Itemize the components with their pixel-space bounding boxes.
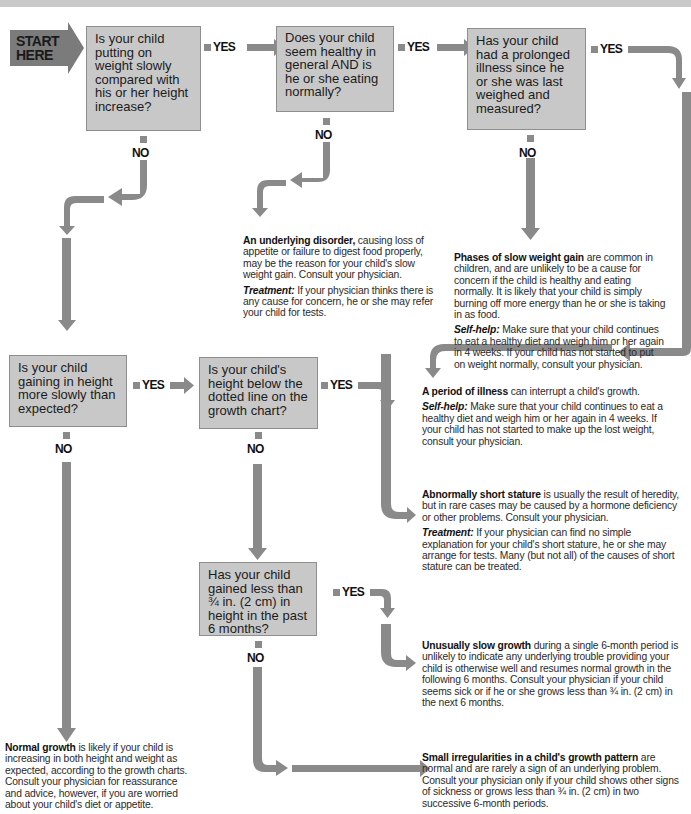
treatment-heading: Treatment: — [243, 285, 295, 296]
question-text: Has your child had a prolonged illness s… — [476, 33, 570, 116]
start-here-label: START HERE — [10, 26, 82, 70]
result-heading: Normal growth — [5, 742, 76, 753]
result-heading: Small irregularities in a child's growth… — [422, 752, 638, 763]
question-box-healthy-eating[interactable]: Does your child seem healthy in general … — [276, 26, 394, 112]
result-short-stature: Abnormally short stature is usually the … — [422, 489, 684, 577]
yes-label: YES — [213, 40, 235, 54]
question-text: Is your child's height below the dotted … — [208, 362, 308, 418]
question-text: Has your child gained less than ¾ in. (2… — [208, 567, 307, 636]
no-label: NO — [247, 442, 264, 456]
result-underlying-disorder: An underlying disorder, causing loss of … — [243, 235, 443, 323]
no-label: NO — [247, 651, 264, 665]
question-box-below-dotted-line[interactable]: Is your child's height below the dotted … — [199, 357, 318, 429]
yes-label: YES — [142, 378, 164, 392]
result-small-irregularities: Small irregularities in a child's growth… — [422, 752, 688, 813]
question-text: Does your child seem healthy in general … — [285, 30, 378, 99]
question-box-weight-slowly[interactable]: Is your child putting on weight slowly c… — [86, 26, 201, 131]
question-box-height-slowly[interactable]: Is your child gaining in height more slo… — [9, 355, 127, 427]
start-line-1: START — [16, 34, 82, 48]
self-help-heading: Self-help: — [422, 401, 467, 412]
no-label: NO — [315, 128, 332, 142]
treatment-heading: Treatment: — [422, 527, 474, 538]
question-box-prolonged-illness[interactable]: Has your child had a prolonged illness s… — [467, 28, 586, 130]
result-unusually-slow-growth: Unusually slow growth during a single 6-… — [422, 640, 684, 712]
result-phases-slow-weight-gain: Phases of slow weight gain are common in… — [454, 252, 666, 374]
result-period-of-illness: A period of illness can interrupt a chil… — [422, 386, 674, 451]
result-heading: Unusually slow growth — [422, 640, 531, 651]
yes-label: YES — [407, 40, 429, 54]
result-heading: Phases of slow weight gain — [454, 252, 584, 263]
result-heading: A period of illness — [422, 386, 508, 397]
question-text: Is your child gaining in height more slo… — [18, 360, 116, 416]
result-heading: An underlying disorder, — [243, 235, 355, 246]
question-text: Is your child putting on weight slowly c… — [95, 31, 188, 114]
yes-label: YES — [342, 585, 364, 599]
result-normal-growth: Normal growth is likely if your child is… — [5, 742, 195, 814]
no-label: NO — [55, 442, 72, 456]
result-heading: Abnormally short stature — [422, 489, 541, 500]
no-label: NO — [519, 146, 536, 160]
question-box-gained-less[interactable]: Has your child gained less than ¾ in. (2… — [199, 562, 317, 636]
start-line-2: HERE — [16, 48, 82, 62]
yes-label: YES — [600, 42, 622, 56]
result-body: can interrupt a child's growth. — [508, 386, 640, 397]
self-help-heading: Self-help: — [454, 324, 499, 335]
yes-label: YES — [330, 378, 352, 392]
no-label: NO — [132, 146, 149, 160]
